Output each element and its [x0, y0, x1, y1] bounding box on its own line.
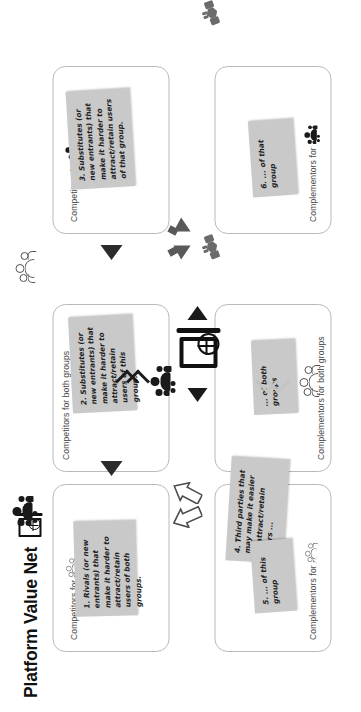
- panel-label-text: Complementors for: [307, 147, 317, 222]
- center-platform-icon: [175, 324, 221, 370]
- hollow-arrow-1: [172, 482, 202, 504]
- grey-arrow-head-2: [173, 217, 194, 238]
- sticky-note-2[interactable]: 2. Substitutes (or new entrants) that ma…: [68, 314, 137, 413]
- handshake-icon: [200, 0, 220, 26]
- handshake-icon: [200, 234, 220, 260]
- arrow-into-platform-right: [187, 306, 207, 320]
- chevron-up-light-icon: [258, 373, 280, 390]
- sticky-note-1[interactable]: 1. Rivals (or new entrants) that make it…: [73, 520, 137, 617]
- sticky-note-3[interactable]: 3. Substitutes (or new entrants) that ma…: [65, 88, 135, 190]
- sticky-note-6[interactable]: 6. ... of that group: [247, 119, 297, 198]
- grey-arrow-head-1: [173, 238, 194, 259]
- diagram-title-block: Platform Value Net: [16, 511, 44, 698]
- user-group-dark-icon: [304, 126, 320, 145]
- panel-complementors-group-a-label: Complementors for: [299, 532, 325, 640]
- page-title: Platform Value Net: [20, 547, 41, 698]
- chevron-down-dark-icon: [118, 373, 140, 390]
- user-group-outline-icon: [298, 366, 324, 396]
- arrow-competitors-group-b: [100, 245, 122, 260]
- diagram-canvas: Platform Value Net Competitors for Compe…: [0, 0, 361, 712]
- panel-complementors-group-b-label: Complementors for: [299, 114, 325, 222]
- sticky-note-5[interactable]: 5. ... of this group: [250, 539, 297, 614]
- panel-label-text: Complementors for: [307, 565, 317, 640]
- user-group-outline-icon: [304, 544, 320, 563]
- panel-complementors-both-label: Complementors for both groups: [315, 336, 325, 460]
- user-group-dark-icon: [12, 496, 38, 526]
- arrow-into-platform-left: [187, 388, 207, 402]
- panel-competitors-both-label: Competitors for both groups: [60, 351, 70, 460]
- user-group-dark-icon: [150, 366, 176, 396]
- user-group-outline-icon: [14, 252, 40, 282]
- arrow-competitors-group-a: [100, 461, 122, 476]
- hollow-arrow-2: [172, 506, 202, 528]
